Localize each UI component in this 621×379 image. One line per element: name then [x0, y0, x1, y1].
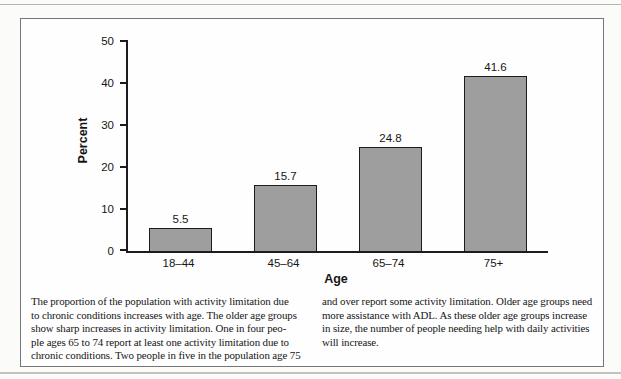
x-category-label: 18–44 — [126, 257, 231, 269]
caption-right-column: and over report some activity limitation… — [322, 295, 597, 363]
figure-caption: The proportion of the population with ac… — [31, 295, 597, 363]
y-tick-mark-0 — [120, 249, 128, 251]
caption-line: in size, the number of people needing he… — [322, 322, 597, 336]
caption-left-column: The proportion of the population with ac… — [31, 295, 306, 363]
caption-line: ple ages 65 to 74 report at least one ac… — [31, 336, 306, 350]
bar-slot-45-64: 15.7 — [233, 170, 338, 251]
bar-value-label: 15.7 — [274, 170, 296, 182]
page: Percent 01020304050 5.515.724.841.6 18–4… — [0, 0, 621, 379]
bar-value-label: 24.8 — [379, 132, 401, 144]
bar-value-label: 41.6 — [484, 61, 506, 73]
x-category-label: 45–64 — [231, 257, 336, 269]
y-tick-mark-20 — [120, 166, 128, 168]
x-axis-title: Age — [126, 272, 546, 286]
bars-group: 5.515.724.841.6 — [128, 41, 548, 251]
y-tick-mark-30 — [120, 124, 128, 126]
bar-45-64 — [254, 185, 317, 251]
y-tick-label-40: 40 — [82, 76, 114, 90]
y-tick-label-50: 50 — [82, 34, 114, 48]
bar-value-label: 5.5 — [173, 213, 189, 225]
caption-line: more assistance with ADL. As these older… — [322, 309, 597, 323]
bar-18-44 — [149, 228, 212, 251]
caption-line: and over report some activity limitation… — [322, 295, 597, 309]
bar-slot-75plus: 41.6 — [443, 61, 548, 251]
y-tick-label-30: 30 — [82, 118, 114, 132]
page-top-rule — [0, 4, 621, 5]
caption-line: The proportion of the population with ac… — [31, 295, 306, 309]
caption-line: show sharp increases in activity limitat… — [31, 322, 306, 336]
x-category-label: 65–74 — [336, 257, 441, 269]
caption-line: will increase. — [322, 336, 597, 350]
bar-65-74 — [359, 147, 422, 251]
y-tick-mark-10 — [120, 208, 128, 210]
bar-slot-65-74: 24.8 — [338, 132, 443, 251]
caption-line: chronic conditions. Two people in five i… — [31, 349, 306, 363]
x-axis-category-labels: 18–4445–6465–7475+ — [126, 257, 546, 269]
y-tick-mark-40 — [120, 82, 128, 84]
x-category-label: 75+ — [441, 257, 546, 269]
figure-box: Percent 01020304050 5.515.724.841.6 18–4… — [20, 18, 604, 367]
page-bottom-rule — [0, 372, 621, 374]
y-tick-mark-50 — [120, 40, 128, 42]
y-tick-label-10: 10 — [82, 202, 114, 216]
bar-75plus — [464, 76, 527, 251]
plot-area: 01020304050 5.515.724.841.6 — [126, 41, 548, 253]
bar-slot-18-44: 5.5 — [128, 213, 233, 251]
y-tick-label-20: 20 — [82, 160, 114, 174]
caption-line: to chronic conditions increases with age… — [31, 309, 306, 323]
y-tick-label-0: 0 — [82, 244, 114, 258]
